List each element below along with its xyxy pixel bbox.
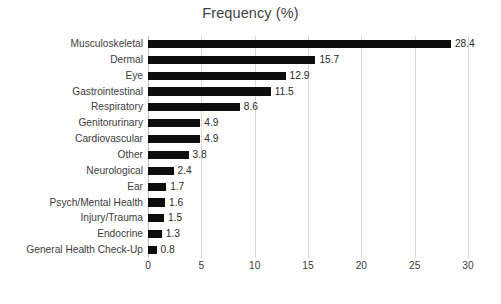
bar[interactable] [148,56,315,64]
value-label: 1.6 [165,195,183,211]
bar-row[interactable]: Respiratory8.6 [0,99,501,115]
bar-row[interactable]: Dermal15.7 [0,52,501,68]
category-label: General Health Check-Up [26,242,147,258]
bar[interactable] [148,72,286,80]
category-label: Cardiovascular [75,131,147,147]
bar-row[interactable]: General Health Check-Up0.8 [0,242,501,258]
value-label: 0.8 [157,242,175,258]
value-label: 1.3 [162,226,180,242]
bar-row[interactable]: Neurological2.4 [0,163,501,179]
category-label: Gastrointestinal [72,84,147,100]
bar[interactable] [148,40,451,48]
category-label: Neurological [86,163,147,179]
bar-chart: Frequency (%) Musculoskeletal28.4Dermal1… [0,0,501,304]
value-label: 4.9 [200,131,218,147]
value-label: 1.5 [164,210,182,226]
value-label: 4.9 [200,115,218,131]
bar-row[interactable]: Injury/Trauma1.5 [0,210,501,226]
bar-row[interactable]: Eye12.9 [0,68,501,84]
bar[interactable] [148,167,174,175]
value-label: 15.7 [315,52,339,68]
category-label: Psych/Mental Health [50,195,147,211]
category-label: Endocrine [97,226,147,242]
bar-row[interactable]: Musculoskeletal28.4 [0,36,501,52]
value-label: 2.4 [174,163,192,179]
bar[interactable] [148,230,162,238]
category-label: Dermal [110,52,147,68]
x-tick-label: 15 [288,260,328,271]
bar[interactable] [148,103,240,111]
bar[interactable] [148,151,189,159]
bar-row[interactable]: Genitorurinary4.9 [0,115,501,131]
category-label: Injury/Trauma [81,210,147,226]
bar[interactable] [148,119,200,127]
x-tick-label: 30 [448,260,488,271]
value-label: 11.5 [271,84,294,100]
value-label: 1.7 [166,179,184,195]
category-label: Eye [125,68,147,84]
category-label: Ear [127,179,147,195]
bar[interactable] [148,87,271,95]
bar-row[interactable]: Endocrine1.3 [0,226,501,242]
category-label: Musculoskeletal [71,36,147,52]
value-label: 12.9 [286,68,310,84]
category-label: Genitorurinary [78,115,147,131]
bar-row[interactable]: Gastrointestinal11.5 [0,84,501,100]
chart-title: Frequency (%) [0,5,501,21]
bar-rows: Musculoskeletal28.4Dermal15.7Eye12.9Gast… [0,36,501,258]
x-tick-label: 25 [395,260,435,271]
bar-row[interactable]: Ear1.7 [0,179,501,195]
value-label: 8.6 [240,99,258,115]
x-tick-label: 0 [128,260,168,271]
bar-row[interactable]: Psych/Mental Health1.6 [0,195,501,211]
value-label: 3.8 [189,147,207,163]
bar[interactable] [148,246,157,254]
bar-row[interactable]: Other3.8 [0,147,501,163]
value-label: 28.4 [451,36,475,52]
bar[interactable] [148,214,164,222]
bar[interactable] [148,183,166,191]
bar-row[interactable]: Cardiovascular4.9 [0,131,501,147]
category-label: Respiratory [91,99,147,115]
x-axis: 051015202530 [0,260,501,278]
x-tick-label: 5 [181,260,221,271]
category-label: Other [118,147,147,163]
x-tick-label: 20 [341,260,381,271]
bar[interactable] [148,198,165,206]
x-tick-label: 10 [235,260,275,271]
bar[interactable] [148,135,200,143]
